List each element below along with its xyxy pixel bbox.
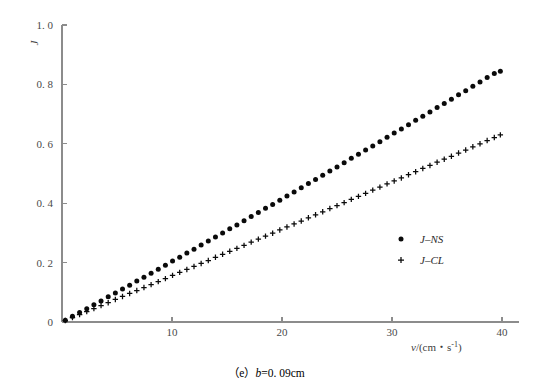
- data-point: [363, 148, 368, 153]
- data-point: [399, 175, 404, 180]
- y-axis-tick-label: 0: [48, 316, 54, 328]
- data-point: [134, 288, 139, 293]
- data-point: [327, 169, 332, 174]
- data-point: [249, 214, 254, 219]
- y-axis-tick-label: 0. 4: [37, 197, 54, 209]
- data-point: [263, 233, 268, 238]
- data-point: [470, 144, 475, 149]
- data-point: [363, 191, 368, 196]
- y-axis-tick-label: 0. 6: [37, 138, 54, 150]
- data-point: [313, 177, 318, 182]
- series-j-ns: [63, 69, 503, 323]
- x-axis-tick-label: 20: [277, 326, 289, 338]
- legend-marker-plus: [398, 257, 404, 263]
- data-point: [198, 261, 203, 266]
- data-point: [156, 267, 161, 272]
- data-point: [242, 218, 247, 223]
- x-axis-title-close: ): [458, 341, 462, 354]
- data-point: [299, 185, 304, 190]
- data-point: [149, 271, 154, 276]
- data-point: [370, 187, 375, 192]
- data-point: [213, 255, 218, 260]
- data-point: [413, 169, 418, 174]
- data-point: [106, 300, 111, 305]
- data-point: [406, 122, 411, 127]
- y-axis-tick-label: 0. 8: [37, 78, 54, 90]
- data-point: [434, 160, 439, 165]
- data-point: [241, 243, 246, 248]
- axes-group: 00. 20. 40. 60. 81. 010203040: [37, 19, 519, 338]
- data-point: [234, 222, 239, 227]
- series-j-cl: [63, 132, 503, 323]
- data-point: [498, 69, 503, 74]
- x-axis-title-units: /(cm・s: [416, 341, 451, 354]
- data-point: [498, 132, 503, 137]
- data-point: [98, 303, 103, 308]
- data-point: [163, 263, 168, 268]
- data-point: [435, 105, 440, 110]
- data-point: [206, 258, 211, 263]
- data-point: [456, 92, 461, 97]
- data-point: [449, 97, 454, 102]
- data-point: [327, 206, 332, 211]
- legend-label: J–CL: [420, 254, 444, 266]
- data-point: [377, 139, 382, 144]
- data-point: [249, 239, 254, 244]
- data-point: [442, 101, 447, 106]
- data-point: [420, 114, 425, 119]
- data-point: [220, 230, 225, 235]
- data-point: [492, 71, 497, 76]
- data-point: [170, 273, 175, 278]
- data-point: [284, 224, 289, 229]
- data-point: [306, 181, 311, 186]
- chart-legend: J–NSJ–CL: [398, 233, 444, 266]
- data-point: [127, 283, 132, 288]
- figure-container: 00. 20. 40. 60. 81. 010203040 J–NSJ–CL J…: [0, 0, 533, 389]
- data-point: [349, 197, 354, 202]
- data-point: [484, 138, 489, 143]
- data-point: [120, 287, 125, 292]
- data-point: [184, 251, 189, 256]
- data-point: [148, 282, 153, 287]
- data-point: [227, 226, 232, 231]
- data-point: [406, 172, 411, 177]
- data-point: [192, 247, 197, 252]
- data-point: [413, 118, 418, 123]
- legend-label: J–NS: [420, 233, 444, 245]
- data-point: [485, 75, 490, 80]
- data-point: [399, 126, 404, 131]
- data-point: [356, 194, 361, 199]
- data-point: [449, 154, 454, 159]
- data-point: [442, 157, 447, 162]
- figure-caption: （e）b=0. 09cm: [0, 363, 533, 381]
- data-point: [463, 147, 468, 152]
- data-point: [256, 236, 261, 241]
- data-point: [341, 200, 346, 205]
- data-point: [477, 141, 482, 146]
- data-point: [277, 198, 282, 203]
- data-point: [191, 264, 196, 269]
- data-point: [256, 210, 261, 215]
- data-point: [291, 221, 296, 226]
- data-point: [320, 209, 325, 214]
- x-axis-title-exponent: -1: [451, 340, 458, 349]
- data-point: [113, 297, 118, 302]
- data-point: [384, 181, 389, 186]
- data-point: [420, 166, 425, 171]
- data-point: [370, 143, 375, 148]
- data-point: [277, 227, 282, 232]
- x-axis-tick-label: 40: [497, 326, 509, 338]
- data-point: [292, 189, 297, 194]
- data-point: [206, 238, 211, 243]
- data-point: [170, 259, 175, 264]
- data-point: [163, 276, 168, 281]
- data-point: [227, 249, 232, 254]
- data-point: [392, 131, 397, 136]
- data-point: [127, 291, 132, 296]
- data-series-group: [63, 69, 503, 323]
- data-point: [492, 135, 497, 140]
- data-point: [120, 294, 125, 299]
- data-point: [342, 160, 347, 165]
- data-point: [270, 202, 275, 207]
- data-point: [156, 279, 161, 284]
